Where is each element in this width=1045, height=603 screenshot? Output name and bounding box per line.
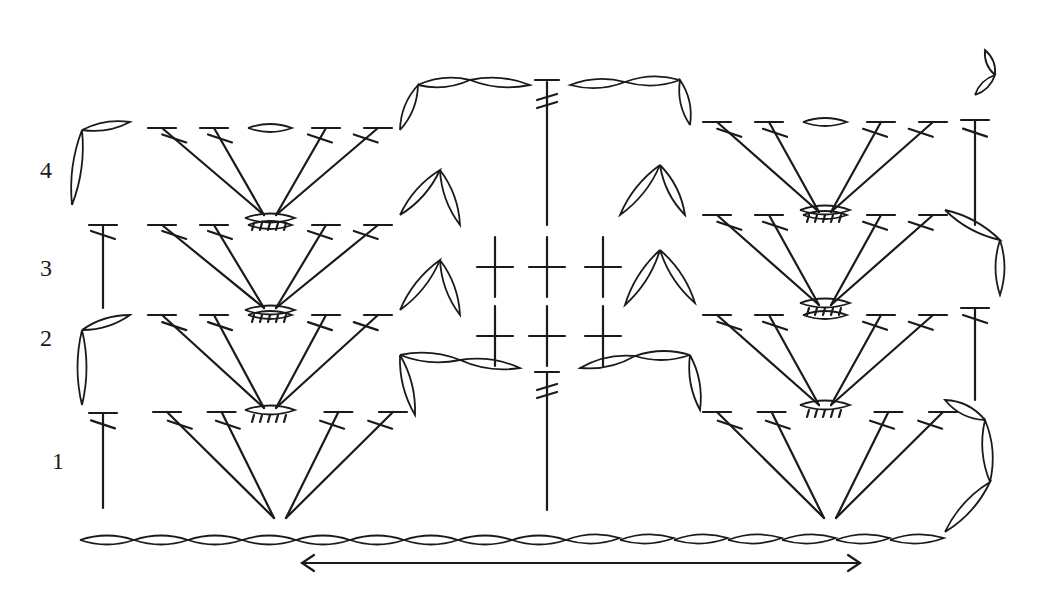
stitch-chart-svg bbox=[0, 0, 1045, 603]
direction-arrow bbox=[302, 555, 860, 571]
shell-fans bbox=[148, 118, 957, 518]
picots-and-posts bbox=[71, 50, 1004, 510]
crochet-diagram: 4 3 2 1 bbox=[0, 0, 1045, 603]
